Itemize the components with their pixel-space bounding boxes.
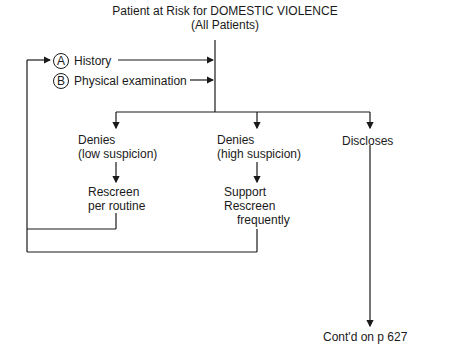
action-high-line1: Support (224, 185, 266, 199)
branch-discloses: Discloses (342, 134, 393, 148)
action-high-line2: Rescreen (224, 199, 275, 213)
action-low-line2: per routine (88, 199, 145, 213)
marker-b-icon: B (53, 73, 69, 89)
title-line2: (All Patients) (100, 18, 350, 32)
input-history: AHistory (53, 52, 111, 69)
branch-high-line2: (high suspicion) (217, 147, 301, 161)
marker-a-icon: A (53, 53, 69, 69)
branch-high-line1: Denies (217, 133, 254, 147)
input-label: Physical examination (74, 74, 187, 88)
branch-low-line2: (low suspicion) (78, 147, 157, 161)
title-line1: Patient at Risk for DOMESTIC VIOLENCE (100, 4, 350, 18)
branch-low-line1: Denies (78, 133, 115, 147)
input-label: History (74, 54, 111, 68)
action-low-line1: Rescreen (88, 185, 139, 199)
input-physical-exam: BPhysical examination (53, 72, 187, 89)
action-high-line3: frequently (237, 213, 290, 227)
continuation-note: Cont'd on p 627 (323, 330, 407, 344)
